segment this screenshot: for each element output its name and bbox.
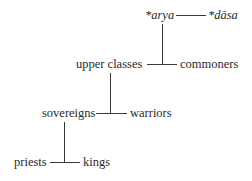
- connector-sovereigns-warriors: [96, 113, 127, 114]
- node-sovereigns: sovereigns: [42, 106, 95, 120]
- node-warriors: warriors: [130, 106, 172, 120]
- node-arya: *arya: [145, 8, 174, 22]
- node-priests: priests: [14, 155, 47, 169]
- connector-priests-kings: [50, 162, 80, 163]
- connector-upper-down: [110, 73, 111, 113]
- connector-arya-down: [162, 24, 163, 64]
- connector-sovereigns-down: [64, 122, 65, 162]
- connector-upper-commoners: [147, 64, 177, 65]
- node-commoners: commoners: [180, 57, 238, 71]
- connector-arya-dasa: [176, 15, 206, 16]
- node-dasa: *dāsa: [208, 8, 238, 22]
- node-upper-classes: upper classes: [76, 57, 142, 71]
- node-kings: kings: [83, 155, 110, 169]
- hierarchy-diagram: *arya *dāsa upper classes commoners sove…: [0, 0, 252, 181]
